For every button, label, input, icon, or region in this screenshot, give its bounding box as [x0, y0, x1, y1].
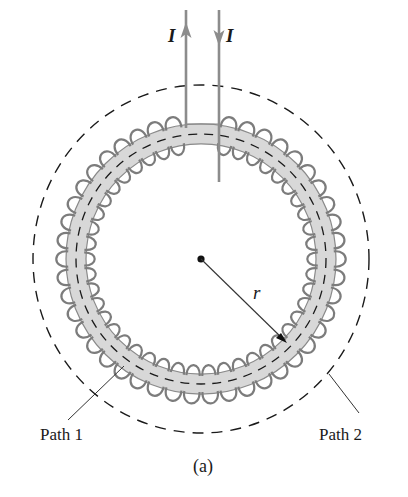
current-label-down: I	[225, 25, 234, 46]
path-1-label: Path 1	[40, 425, 83, 444]
path-2-label: Path 2	[319, 425, 362, 444]
figure-caption: (a)	[193, 456, 213, 477]
radius-label: r	[253, 282, 261, 303]
path-1-leader	[68, 366, 124, 420]
toroid-ampere-diagram: I I r Path 1 Path 2 (a)	[0, 0, 408, 497]
radius-line	[201, 259, 284, 340]
lead-wires	[181, 10, 225, 182]
path-2-leader	[329, 374, 359, 413]
current-label-up: I	[167, 25, 176, 46]
